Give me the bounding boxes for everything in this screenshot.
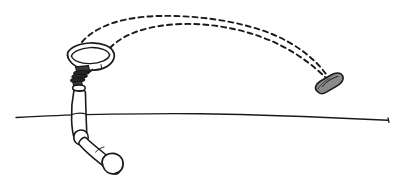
- trajectory-arc-lower: [110, 24, 326, 78]
- robot-arm-upper-segment: [72, 85, 89, 145]
- sketch-svg: [0, 0, 401, 189]
- ring-hoop: [67, 43, 114, 70]
- illustration-canvas: Robot arm tossing object trajectory sket…: [0, 0, 401, 189]
- robot-arm-lower-segment: [79, 137, 123, 174]
- projectile-capsule: [315, 73, 343, 94]
